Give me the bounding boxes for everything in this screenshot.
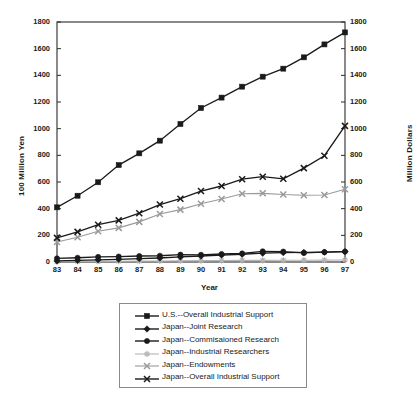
legend-item[interactable]: Japan--Joint Research: [120, 321, 306, 334]
data-point: [54, 256, 59, 261]
data-point: [281, 66, 286, 71]
data-point: [199, 106, 204, 111]
data-point: [96, 254, 101, 259]
data-point: [342, 249, 347, 254]
data-point: [157, 253, 162, 258]
legend-star-icon: [134, 346, 160, 358]
data-point: [145, 314, 150, 319]
data-point: [219, 251, 224, 256]
legend-diamond-icon: [134, 321, 160, 333]
data-point: [137, 253, 142, 258]
data-point: [144, 339, 149, 344]
legend-cross-icon: [134, 371, 160, 383]
legend-item-label: Japan--Endowments: [160, 360, 235, 369]
data-point: [137, 151, 142, 156]
legend-item-label: Japan--Industrial Researchers: [160, 347, 269, 356]
data-point: [260, 74, 265, 79]
data-point: [198, 252, 203, 257]
data-point: [342, 257, 348, 263]
data-point: [281, 249, 286, 254]
data-point: [321, 153, 327, 159]
data-point: [322, 250, 327, 255]
chart-legend: U.S.--Overall Industrial SupportJapan--J…: [119, 303, 307, 388]
legend-item[interactable]: Japan--Commisaioned Research: [120, 333, 306, 346]
data-point: [136, 210, 142, 216]
data-point: [240, 84, 245, 89]
data-point: [239, 257, 245, 263]
legend-item-label: Japan--Commisaioned Research: [160, 335, 279, 344]
legend-cross-icon: [134, 358, 160, 370]
data-point: [136, 219, 142, 225]
data-point: [144, 326, 150, 332]
data-point: [321, 257, 327, 263]
data-point: [157, 138, 162, 143]
legend-item-label: Japan--Joint Research: [160, 322, 242, 331]
data-point: [240, 251, 245, 256]
data-point: [322, 42, 327, 47]
legend-item-label: U.S.--Overall Industrial Support: [160, 310, 273, 319]
line-chart-figure: 100 Million Yen Million Dollars Year 020…: [0, 0, 419, 404]
legend-circle-icon: [134, 333, 160, 345]
data-point: [301, 55, 306, 60]
data-point: [280, 257, 286, 263]
data-point: [96, 180, 101, 185]
data-point: [75, 255, 80, 260]
series-0: [55, 30, 348, 210]
legend-item[interactable]: Japan--Industrial Researchers: [120, 346, 306, 359]
series-4: [54, 186, 348, 245]
legend-item[interactable]: Japan--Overall Industrial Support: [120, 371, 306, 384]
data-point: [55, 205, 60, 210]
data-point: [144, 351, 150, 357]
legend-item-label: Japan--Overall Industrial Support: [160, 372, 279, 381]
data-point: [260, 257, 266, 263]
data-point: [260, 249, 265, 254]
legend-item[interactable]: U.S.--Overall Industrial Support: [120, 308, 306, 321]
data-point: [301, 250, 306, 255]
data-point: [301, 165, 307, 171]
data-point: [343, 30, 348, 35]
data-point: [301, 257, 307, 263]
data-point: [178, 252, 183, 257]
data-point: [116, 163, 121, 168]
data-point: [75, 193, 80, 198]
data-point: [116, 254, 121, 259]
data-point: [178, 122, 183, 127]
legend-item[interactable]: Japan--Endowments: [120, 358, 306, 371]
legend-square-icon: [134, 308, 160, 320]
data-point: [219, 95, 224, 100]
